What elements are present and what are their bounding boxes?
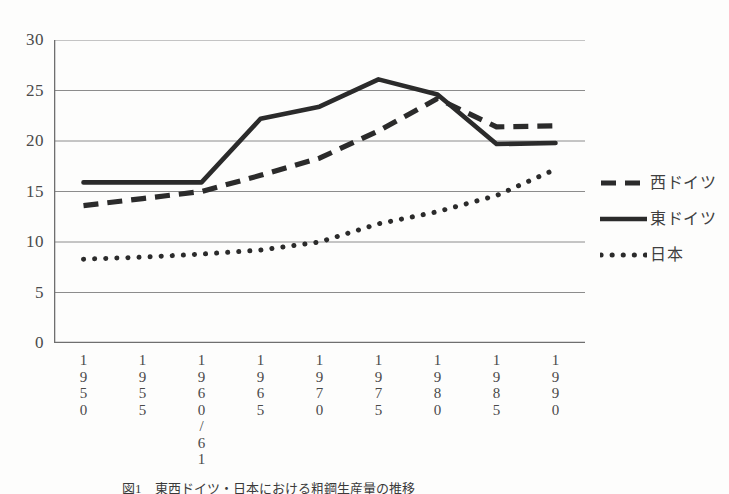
x-tick-label-char: 6 xyxy=(185,435,219,452)
x-tick-label-char: 1 xyxy=(185,352,219,369)
x-tick-label-char: 5 xyxy=(244,402,278,419)
x-tick-label-char: 0 xyxy=(185,402,219,419)
x-tick-label-char: 9 xyxy=(539,369,573,386)
y-tick-label: 0 xyxy=(8,334,44,351)
x-tick-label-char: 6 xyxy=(244,385,278,402)
legend-sample-solid xyxy=(600,211,647,227)
x-tick-label-char: 1 xyxy=(421,352,455,369)
legend-japan: 日本 xyxy=(600,240,683,270)
x-tick-label: 1960/61 xyxy=(185,352,219,468)
x-tick-label-char: 5 xyxy=(126,385,160,402)
x-tick-label-char: 9 xyxy=(421,369,455,386)
x-tick-label-char: 0 xyxy=(421,402,455,419)
x-tick-label-char: 9 xyxy=(303,369,337,386)
y-tick-label: 30 xyxy=(8,31,44,48)
y-tick-label: 5 xyxy=(8,284,44,301)
x-tick-label-char: 9 xyxy=(539,385,573,402)
x-tick-label-char: 5 xyxy=(362,402,396,419)
x-tick-label-char: 1 xyxy=(67,352,101,369)
series-line-2 xyxy=(84,79,556,182)
x-tick-label-char: 1 xyxy=(362,352,396,369)
data-series xyxy=(54,40,585,343)
x-axis-labels: 195019551960/61196519701975198019851990 xyxy=(54,352,585,482)
x-tick-label: 1975 xyxy=(362,352,396,418)
y-tick-label: 25 xyxy=(8,82,44,99)
legend-label: 日本 xyxy=(647,247,683,263)
x-tick-label-char: 5 xyxy=(480,402,514,419)
x-tick-label-char: 1 xyxy=(480,352,514,369)
x-tick-label-char: 8 xyxy=(421,385,455,402)
x-tick-label-char: 9 xyxy=(244,369,278,386)
x-tick-label-char: 5 xyxy=(126,402,160,419)
x-tick-label: 1965 xyxy=(244,352,278,418)
figure-caption: 図1 東西ドイツ・日本における粗鋼生産量の推移 xyxy=(122,481,642,494)
legend-east-germany: 東ドイツ xyxy=(600,204,716,234)
x-tick-label-char: 7 xyxy=(303,385,337,402)
x-tick-label-char: 6 xyxy=(185,385,219,402)
x-tick-label-char: 8 xyxy=(480,385,514,402)
x-tick-label-char: 1 xyxy=(244,352,278,369)
x-tick-label-char: 0 xyxy=(303,402,337,419)
x-tick-label: 1950 xyxy=(67,352,101,418)
x-tick-label: 1955 xyxy=(126,352,160,418)
legend-sample-dotted xyxy=(600,247,647,263)
x-tick-label-char: 9 xyxy=(185,369,219,386)
x-tick-label: 1990 xyxy=(539,352,573,418)
x-tick-label: 1980 xyxy=(421,352,455,418)
legend-west-germany: 西ドイツ xyxy=(600,168,716,198)
plot-area xyxy=(54,40,585,343)
x-tick-label-char: / xyxy=(185,418,219,435)
x-tick-label: 1985 xyxy=(480,352,514,418)
y-tick-label: 20 xyxy=(8,132,44,149)
x-tick-label-char: 1 xyxy=(303,352,337,369)
x-tick-label-char: 9 xyxy=(126,369,160,386)
x-tick-label-char: 7 xyxy=(362,385,396,402)
y-tick-label: 15 xyxy=(8,183,44,200)
x-tick-label-char: 9 xyxy=(67,369,101,386)
legend-label: 東ドイツ xyxy=(647,211,716,227)
x-tick-label-char: 9 xyxy=(362,369,396,386)
chart-legend: 西ドイツ東ドイツ日本 xyxy=(600,168,729,273)
x-tick-label-char: 0 xyxy=(67,402,101,419)
x-tick-label-char: 1 xyxy=(185,451,219,468)
legend-label: 西ドイツ xyxy=(647,175,716,191)
x-tick-label-char: 1 xyxy=(126,352,160,369)
y-tick-label: 10 xyxy=(8,233,44,250)
legend-sample-dashed xyxy=(600,175,647,191)
figure-container: 051015202530 195019551960/61196519701975… xyxy=(0,0,729,494)
x-tick-label-char: 9 xyxy=(480,369,514,386)
y-axis-labels: 051015202530 xyxy=(0,40,44,343)
x-tick-label: 1970 xyxy=(303,352,337,418)
x-tick-label-char: 5 xyxy=(67,385,101,402)
series-line-1 xyxy=(84,99,556,206)
x-tick-label-char: 1 xyxy=(539,352,573,369)
x-tick-label-char: 0 xyxy=(539,402,573,419)
